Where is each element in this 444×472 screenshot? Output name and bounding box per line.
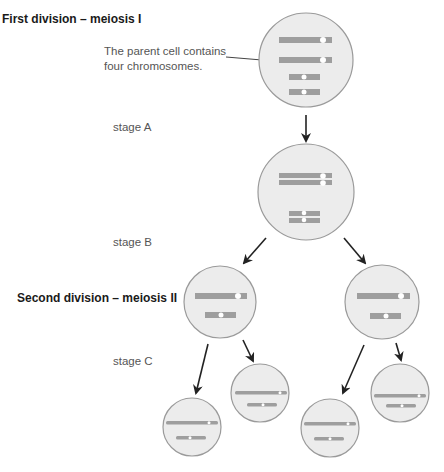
gamete-3 [301,399,359,457]
arrow-c-1 [196,344,208,393]
gamete-2 [231,364,289,422]
gamete-4 [371,364,429,422]
arrow-b-right [344,238,365,263]
gamete-1 [163,398,221,456]
arrow-b-left [244,238,266,263]
meiosis-ii-cell-left [184,266,256,338]
arrow-c-2 [243,340,253,361]
stage-b-cell [258,144,354,240]
arrow-c-4 [396,343,401,360]
arrow-c-3 [343,345,364,393]
meiosis-diagram [0,0,444,472]
parent-cell [259,13,353,107]
note-pointer-line [226,57,262,60]
meiosis-ii-cell-right [345,265,419,339]
